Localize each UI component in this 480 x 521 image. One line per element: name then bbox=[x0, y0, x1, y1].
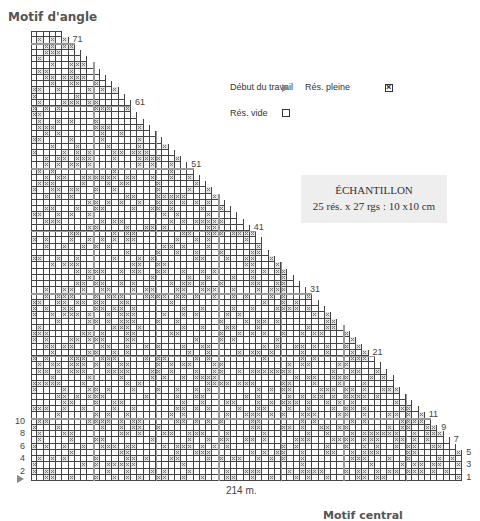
major-gridline bbox=[406, 394, 408, 482]
major-gridline bbox=[31, 43, 75, 45]
row-number-label: 41 bbox=[254, 223, 264, 232]
chart-row bbox=[31, 62, 94, 68]
row-number-label: 11 bbox=[429, 410, 438, 419]
row-number-label: 7 bbox=[454, 435, 459, 444]
major-gridline bbox=[156, 131, 158, 481]
chart-row bbox=[31, 300, 319, 306]
empty-box-icon bbox=[282, 109, 290, 117]
sample-title: ÉCHANTILLON bbox=[301, 182, 447, 198]
row-number-label: 61 bbox=[135, 98, 145, 107]
major-gridline bbox=[218, 194, 220, 482]
chart-row bbox=[31, 475, 462, 481]
start-arrow-icon bbox=[17, 475, 24, 483]
row-number-label: 10 bbox=[15, 417, 25, 426]
chart-row bbox=[31, 337, 356, 343]
legend-empty-label: Rés. vide bbox=[230, 108, 268, 118]
chart-row bbox=[31, 381, 394, 387]
major-gridline bbox=[31, 168, 194, 170]
chart-row bbox=[31, 400, 412, 406]
major-gridline bbox=[31, 231, 256, 233]
chart-row bbox=[31, 119, 144, 125]
chart-row bbox=[31, 375, 394, 381]
chart-row bbox=[31, 456, 462, 462]
chart-row bbox=[31, 250, 269, 256]
chart-row bbox=[31, 175, 200, 181]
chart-row bbox=[31, 362, 381, 368]
chart-row bbox=[31, 125, 150, 131]
chart-row bbox=[31, 369, 387, 375]
row-number-label: 1 bbox=[466, 473, 471, 482]
chart-row bbox=[31, 31, 62, 37]
chart-row bbox=[31, 181, 206, 187]
chart-row bbox=[31, 206, 231, 212]
chart-row bbox=[31, 425, 437, 431]
chart-row bbox=[31, 219, 244, 225]
chart-row bbox=[31, 237, 262, 243]
chart-row bbox=[31, 200, 225, 206]
chart-row bbox=[31, 244, 262, 250]
chart-row bbox=[31, 469, 462, 475]
chart-row bbox=[31, 444, 456, 450]
chart-row bbox=[31, 450, 462, 456]
row-number-label: 31 bbox=[310, 285, 320, 294]
chart-row bbox=[31, 56, 87, 62]
chart-row bbox=[31, 87, 119, 93]
crossed-box-icon bbox=[385, 84, 393, 92]
chart-row bbox=[31, 462, 462, 468]
chart-row bbox=[31, 212, 237, 218]
major-gridline bbox=[31, 106, 131, 108]
chart-row bbox=[31, 144, 169, 150]
row-number-label: 71 bbox=[73, 35, 83, 44]
chart-row bbox=[31, 75, 106, 81]
chart-row bbox=[31, 150, 175, 156]
row-number-label: 51 bbox=[191, 160, 201, 169]
chart-row bbox=[31, 281, 300, 287]
major-gridline bbox=[31, 356, 375, 358]
row-number-label: 9 bbox=[441, 423, 446, 432]
row-number-label: 4 bbox=[20, 454, 25, 463]
sample-gauge: 25 rés. x 27 rgs : 10 x10 cm bbox=[301, 198, 447, 214]
major-gridline bbox=[343, 325, 345, 481]
crochet-chart-grid bbox=[31, 31, 463, 479]
major-gridline bbox=[281, 262, 283, 481]
sample-gauge-box: ÉCHANTILLON 25 rés. x 27 rgs : 10 x10 cm bbox=[301, 175, 447, 223]
row-number-label: 3 bbox=[466, 460, 471, 469]
chart-row bbox=[31, 137, 162, 143]
chart-row bbox=[31, 50, 81, 56]
stitch-count-label: 214 m. bbox=[226, 486, 257, 495]
major-gridline bbox=[31, 293, 312, 295]
chart-row bbox=[31, 406, 419, 412]
chart-row bbox=[31, 331, 350, 337]
chart-row bbox=[31, 319, 337, 325]
chart-row bbox=[31, 69, 100, 75]
chart-row bbox=[31, 344, 362, 350]
central-motif-title: Motif central bbox=[323, 509, 403, 521]
triangle-arrow-icon bbox=[282, 84, 289, 92]
row-number-label: 6 bbox=[20, 442, 25, 451]
row-number-label: 8 bbox=[20, 429, 25, 438]
row-number-label: 21 bbox=[373, 348, 383, 357]
chart-row bbox=[31, 312, 331, 318]
legend-full-label: Rés. pleine bbox=[305, 82, 350, 92]
chart-row bbox=[31, 325, 344, 331]
corner-motif-title: Motif d'angle bbox=[8, 10, 97, 24]
chart-row bbox=[31, 94, 125, 100]
chart-row bbox=[31, 256, 275, 262]
chart-row bbox=[31, 81, 112, 87]
chart-row bbox=[31, 112, 137, 118]
chart-row bbox=[31, 187, 212, 193]
chart-row bbox=[31, 194, 219, 200]
chart-row bbox=[31, 275, 294, 281]
major-gridline bbox=[31, 418, 431, 420]
chart-row bbox=[31, 269, 287, 275]
chart-row bbox=[31, 156, 181, 162]
row-number-label: 5 bbox=[466, 448, 471, 457]
